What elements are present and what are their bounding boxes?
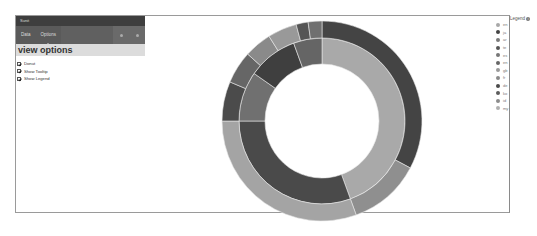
legend-item[interactable]: id [496,97,530,105]
dot-icon [120,34,123,37]
legend-item[interactable]: te [496,44,530,52]
legend-label: de [503,83,507,88]
option-donut[interactable]: Donut [17,60,50,68]
legend-label: fr [503,75,505,80]
legend: Legend i enjaarteesengbfrdekoidmy [496,16,530,112]
legend-dot-icon [496,99,500,103]
legend-dot-icon [496,30,500,34]
legend-label: id [503,98,506,103]
panel-title: Sunit [16,16,145,26]
legend-dot-icon [496,61,500,65]
legend-dot-icon [496,46,500,50]
option-show-legend[interactable]: Show Legend [17,75,50,83]
dot-icon [136,34,139,37]
legend-dot-icon [496,84,500,88]
legend-title-text: Legend [510,16,525,21]
panel-button-1[interactable] [113,26,129,44]
option-label: Show Tooltip [24,69,48,74]
legend-dot-icon [496,91,500,95]
panel-button-2[interactable] [129,26,145,44]
legend-item[interactable]: ar [496,36,530,44]
checkbox-checked-icon[interactable] [17,62,21,66]
legend-item[interactable]: gb [496,67,530,75]
sunburst-segment[interactable] [308,21,322,39]
option-label: Donut [24,61,35,66]
legend-label: my [503,106,508,111]
legend-dot-icon [496,38,500,42]
legend-label: es [503,53,507,58]
legend-dot-icon [496,23,500,27]
legend-dot-icon [496,106,500,110]
legend-label: gb [503,68,507,73]
legend-label: ar [503,37,507,42]
option-label: Show Legend [24,76,50,81]
tab-data[interactable]: Data [16,26,36,44]
options-list: Donut Show Tooltip Show Legend [17,60,50,83]
legend-dot-icon [496,53,500,57]
legend-item[interactable]: en [496,59,530,67]
legend-item[interactable]: my [496,105,530,113]
checkbox-checked-icon[interactable] [17,77,21,81]
legend-dot-icon [496,76,500,80]
legend-dot-icon [496,68,500,72]
legend-items: enjaarteesengbfrdekoidmy [496,21,530,112]
tab-bar-fill [61,26,113,44]
legend-item[interactable]: en [496,21,530,29]
legend-item[interactable]: fr [496,74,530,82]
legend-label: ja [503,30,506,35]
section-title: view options [16,44,145,56]
legend-item[interactable]: de [496,82,530,90]
legend-item[interactable]: ja [496,29,530,37]
legend-label: en [503,22,507,27]
legend-label: ko [503,91,507,96]
panel-tabs: Data Options [16,26,145,44]
option-show-tooltip[interactable]: Show Tooltip [17,68,50,76]
legend-label: te [503,45,506,50]
checkbox-checked-icon[interactable] [17,69,21,73]
info-icon[interactable]: i [526,17,530,21]
legend-item[interactable]: es [496,51,530,59]
legend-item[interactable]: ko [496,89,530,97]
legend-label: en [503,60,507,65]
options-panel: Sunit Data Options view options [16,16,145,56]
tab-options[interactable]: Options [36,26,62,44]
